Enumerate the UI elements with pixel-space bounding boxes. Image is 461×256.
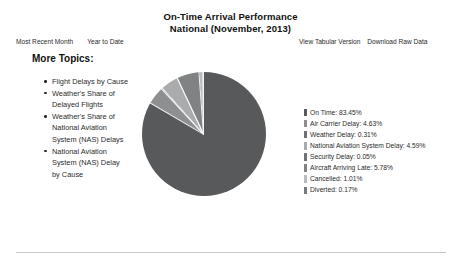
legend-color-swatch <box>304 153 307 160</box>
legend-label: Air Carrier Delay: 4.63% <box>310 120 382 128</box>
legend-item: On Time: 83.45% <box>304 107 425 118</box>
legend-color-swatch <box>304 175 307 182</box>
chart-legend: On Time: 83.45%Air Carrier Delay: 4.63%W… <box>304 107 425 196</box>
footer-divider <box>16 252 446 253</box>
topic-label: National Aviation System (NAS) Delay by … <box>52 147 120 179</box>
bullet-icon <box>44 92 47 95</box>
legend-label: Security Delay: 0.05% <box>310 153 376 161</box>
legend-item: Diverted: 0.17% <box>304 185 425 196</box>
list-item[interactable]: National Aviation System (NAS) Delay by … <box>44 146 128 181</box>
pie-chart <box>142 72 266 196</box>
nav-link-most-recent-month[interactable]: Most Recent Month <box>16 38 73 45</box>
bullet-icon <box>44 115 47 118</box>
legend-label: Weather Delay: 0.31% <box>310 131 377 139</box>
topic-label: Weather's Share of Delayed Flights <box>52 89 115 110</box>
legend-color-swatch <box>304 131 307 138</box>
bullet-icon <box>44 150 47 153</box>
legend-label: Cancelled: 1.01% <box>310 175 362 183</box>
page-title-line-2: National (November, 2013) <box>0 23 461 35</box>
topic-label: Weather's Share of National Aviation Sys… <box>52 112 123 144</box>
legend-label: National Aviation System Delay: 4.59% <box>310 142 425 150</box>
legend-item: Aircraft Arriving Late: 5.78% <box>304 162 425 173</box>
legend-item: Cancelled: 1.01% <box>304 174 425 185</box>
legend-color-swatch <box>304 187 307 194</box>
legend-item: Security Delay: 0.05% <box>304 151 425 162</box>
list-item[interactable]: Weather's Share of National Aviation Sys… <box>44 111 128 146</box>
legend-color-swatch <box>304 164 307 171</box>
topic-label: Flight Delays by Cause <box>52 77 128 86</box>
more-topics-heading: More Topics: <box>32 53 93 64</box>
legend-label: Aircraft Arriving Late: 5.78% <box>310 164 393 172</box>
nav-link-year-to-date[interactable]: Year to Date <box>87 38 123 45</box>
legend-item: National Aviation System Delay: 4.59% <box>304 140 425 151</box>
legend-color-swatch <box>304 120 307 127</box>
list-item[interactable]: Flight Delays by Cause <box>44 76 128 88</box>
page-title: On-Time Arrival Performance National (No… <box>0 11 461 34</box>
primary-nav-right: View Tabular Version Download Raw Data <box>299 38 427 45</box>
legend-label: Diverted: 0.17% <box>310 186 358 194</box>
legend-color-swatch <box>304 109 307 116</box>
page-title-line-1: On-Time Arrival Performance <box>0 11 461 23</box>
legend-item: Weather Delay: 0.31% <box>304 129 425 140</box>
nav-link-download-raw-data[interactable]: Download Raw Data <box>367 38 427 45</box>
legend-color-swatch <box>304 142 307 149</box>
legend-label: On Time: 83.45% <box>310 109 362 117</box>
legend-item: Air Carrier Delay: 4.63% <box>304 118 425 129</box>
bullet-icon <box>44 80 47 83</box>
primary-nav-left: Most Recent Month Year to Date <box>16 38 124 45</box>
pie-chart-slices <box>142 72 266 196</box>
more-topics-list: Flight Delays by Cause Weather's Share o… <box>44 76 128 180</box>
nav-link-view-tabular-version[interactable]: View Tabular Version <box>299 38 360 45</box>
list-item[interactable]: Weather's Share of Delayed Flights <box>44 88 128 111</box>
